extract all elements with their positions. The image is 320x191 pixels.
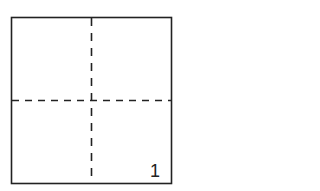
step-number-label: 1 [150, 161, 160, 181]
